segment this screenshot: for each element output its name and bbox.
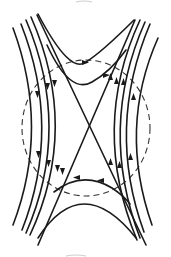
arrow-down-icon [55,165,60,172]
arrow-left-icon [73,175,80,180]
x-point-field-diagram [0,0,171,257]
arrow-up-icon [128,153,133,160]
arrow-right-icon [103,73,110,78]
crop-artifact-top [76,1,92,2]
arrow-down-icon [60,168,65,175]
crop-artifact-bottom [66,255,86,256]
top-right-arrow-icons [82,60,110,78]
arrow-up-icon [114,77,119,84]
arrow-up-icon [131,93,136,100]
right-up-arrow-icons [108,73,136,168]
arrow-up-icon [108,158,113,165]
